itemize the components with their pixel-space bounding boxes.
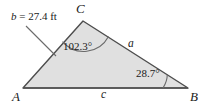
side-b-value: = 27.4 ft xyxy=(17,10,57,22)
vertex-label-b: B xyxy=(190,90,198,103)
triangle-shape xyxy=(23,21,188,88)
angle-label-b: 28.7° xyxy=(136,68,160,79)
vertex-label-a: A xyxy=(12,90,20,103)
side-label-c: c xyxy=(101,89,106,101)
triangle-figure: C A B a c b = 27.4 ft 102.3° 28.7° xyxy=(0,0,210,110)
leader-line-side-b xyxy=(26,26,56,56)
side-label-a: a xyxy=(128,38,134,50)
vertex-label-c: C xyxy=(76,2,85,15)
angle-label-c: 102.3° xyxy=(63,41,92,52)
side-b-measure-label: b = 27.4 ft xyxy=(11,11,57,22)
